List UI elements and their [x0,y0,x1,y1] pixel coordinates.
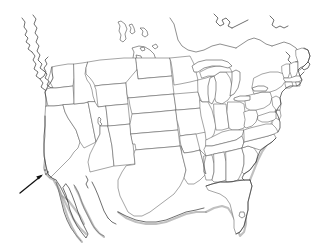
us-outline-map [0,0,336,245]
state-vermont [282,64,290,78]
state-wyoming [95,83,128,107]
marker-dot-1 [44,169,45,170]
state-alabama [212,152,226,182]
state-ohio [227,102,246,130]
state-connecticut [285,82,293,88]
state-oregon [45,86,74,106]
marker-dot-3 [45,173,46,174]
map-figure: Outline map of the contiguous United Sta… [0,0,336,245]
state-colorado [106,104,130,126]
state-north-dakota [136,58,172,79]
state-iowa [174,92,201,110]
marker-dot-2 [47,171,48,172]
state-indiana [214,104,229,130]
